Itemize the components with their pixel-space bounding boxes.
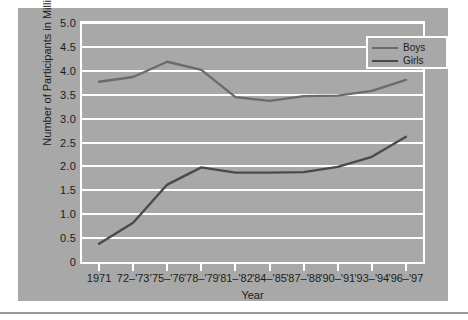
x-tick-label: 72–'73 xyxy=(117,272,150,284)
y-tick-label: 2.5 xyxy=(34,137,76,149)
legend-item-girls: Girls xyxy=(372,54,446,67)
x-tick-mark xyxy=(371,264,373,271)
x-tick-label: '75–'76 xyxy=(150,272,185,284)
x-axis-tickmarks xyxy=(80,264,425,272)
x-tick-label: '81–'82 xyxy=(218,272,253,284)
y-tick-label: 1.0 xyxy=(34,208,76,220)
y-tick-label: 4.0 xyxy=(34,65,76,77)
bottom-divider xyxy=(0,312,468,314)
x-tick-mark xyxy=(166,264,168,271)
legend-swatch xyxy=(372,60,398,62)
x-tick-mark xyxy=(234,264,236,271)
x-axis-title: Year xyxy=(80,289,425,301)
y-axis-ticks: 00.51.01.52.02.53.03.54.04.55.0 xyxy=(26,21,76,264)
y-tick-label: 0 xyxy=(34,256,76,268)
chart-legend: BoysGirls xyxy=(366,36,448,69)
x-tick-label: '84–'85 xyxy=(252,272,287,284)
series-line-girls xyxy=(99,137,406,244)
y-tick-label: 1.5 xyxy=(34,184,76,196)
x-tick-mark xyxy=(337,264,339,271)
x-tick-mark xyxy=(405,264,407,271)
y-tick-label: 4.5 xyxy=(34,41,76,53)
chart-figure: Number of Participants in Millions 00.51… xyxy=(18,8,448,301)
y-tick-label: 3.0 xyxy=(34,113,76,125)
x-tick-label: '87–'88 xyxy=(286,272,321,284)
x-tick-mark xyxy=(269,264,271,271)
y-tick-label: 0.5 xyxy=(34,232,76,244)
legend-swatch xyxy=(372,47,398,49)
x-tick-label: '93–'94 xyxy=(354,272,389,284)
x-tick-label: '96–'97 xyxy=(389,272,424,284)
legend-label: Girls xyxy=(403,54,424,67)
x-axis-labels: 197172–'73'75–'76'78–'79'81–'82'84–'85'8… xyxy=(58,272,448,288)
x-tick-mark xyxy=(98,264,100,271)
y-tick-label: 3.5 xyxy=(34,89,76,101)
x-tick-label: '78–'79 xyxy=(184,272,219,284)
series-line-boys xyxy=(99,62,406,101)
x-tick-label: 1971 xyxy=(87,272,111,284)
x-tick-mark xyxy=(200,264,202,271)
legend-item-boys: Boys xyxy=(372,41,446,54)
x-tick-label: '90–'91 xyxy=(320,272,355,284)
x-tick-mark xyxy=(303,264,305,271)
x-tick-mark xyxy=(132,264,134,271)
legend-label: Boys xyxy=(403,41,425,54)
y-tick-label: 5.0 xyxy=(34,17,76,29)
y-tick-label: 2.0 xyxy=(34,160,76,172)
